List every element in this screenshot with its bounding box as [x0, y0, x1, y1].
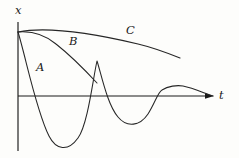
curve-label-a: A: [36, 62, 44, 74]
curve-label-c: C: [126, 25, 135, 37]
damping-curves-figure: x t A B C: [0, 0, 239, 158]
curve-a-underdamped: [18, 32, 213, 148]
plot-canvas: [0, 0, 239, 158]
curve-label-b: B: [69, 36, 77, 48]
axis-label-t: t: [219, 90, 224, 102]
curve-c-overdamped: [18, 30, 180, 58]
axis-label-x: x: [15, 5, 22, 17]
